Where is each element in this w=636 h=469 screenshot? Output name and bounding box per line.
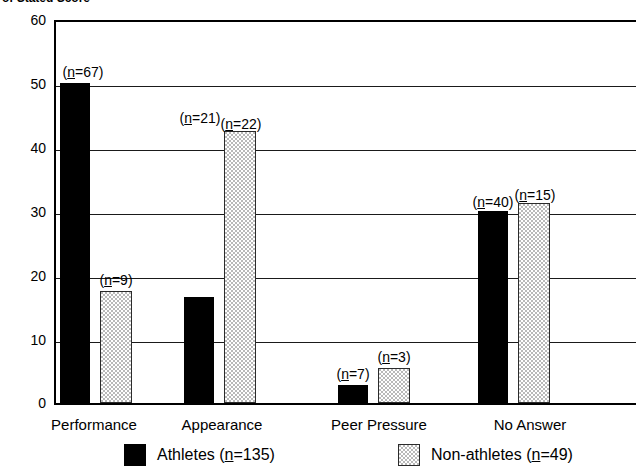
bar-label-nonathletes-peer-pressure: (n=3) (361, 350, 427, 365)
bar-athletes-peer-pressure (338, 385, 368, 403)
y-axis-tick-40: 40 (0, 141, 46, 155)
bar-nonathletes-appearance (224, 131, 256, 403)
chart-legend: Athletes (n=135) Non-athletes (n=49) (0, 443, 636, 469)
x-axis-label-performance: Performance (20, 416, 168, 433)
x-axis-label-no-answer: No Answer (450, 416, 610, 433)
gridline-40 (56, 150, 636, 151)
legend-label-athletes: Athletes (n=135) (157, 446, 275, 464)
x-axis-label-peer-pressure: Peer Pressure (300, 416, 458, 433)
bar-athletes-no-answer (478, 211, 508, 403)
bar-chart: of Stated Score 60 50 40 30 20 10 0 (n=6… (0, 0, 636, 469)
y-axis-tick-20: 20 (0, 269, 46, 283)
clipped-axis-title: of Stated Score (2, 0, 90, 5)
plot-area: (n=67) (n=9) (n=21) (n=22) (n=7) (n=3) (… (54, 20, 636, 405)
y-axis-tick-10: 10 (0, 333, 46, 347)
bar-label-nonathletes-no-answer: (n=15) (500, 188, 570, 203)
bar-nonathletes-performance (100, 291, 132, 403)
gridline-50 (56, 86, 636, 87)
legend-entry-athletes: Athletes (n=135) (124, 443, 275, 467)
y-axis-tick-60: 60 (0, 13, 46, 27)
bar-athletes-performance (60, 83, 90, 403)
x-axis-label-appearance: Appearance (148, 416, 296, 433)
legend-swatch-nonathletes (398, 444, 420, 466)
bar-label-nonathletes-performance: (n=9) (82, 273, 150, 288)
bar-nonathletes-no-answer (518, 203, 550, 403)
y-axis-tick-0: 0 (0, 396, 46, 410)
legend-label-nonathletes: Non-athletes (n=49) (431, 446, 573, 464)
bar-label-athletes-peer-pressure: (n=7) (320, 367, 386, 382)
y-axis-tick-50: 50 (0, 77, 46, 91)
bar-athletes-appearance (184, 297, 214, 403)
legend-swatch-athletes (124, 444, 146, 466)
y-axis-tick-30: 30 (0, 205, 46, 219)
legend-entry-nonathletes: Non-athletes (n=49) (398, 443, 573, 467)
bar-label-athletes-performance: (n=67) (45, 65, 121, 80)
bar-label-nonathletes-appearance: (n=22) (206, 117, 276, 132)
